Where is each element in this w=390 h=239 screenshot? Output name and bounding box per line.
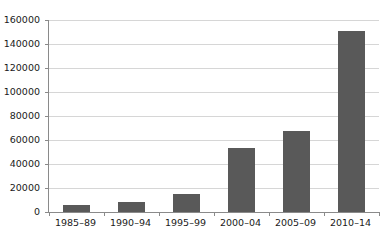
bar bbox=[63, 205, 90, 212]
plot-area bbox=[48, 20, 379, 213]
bar bbox=[228, 148, 255, 212]
x-axis-tick-labels: 1985–891990–941995–992000–042005–092010–… bbox=[48, 218, 378, 228]
bars-group bbox=[49, 20, 379, 212]
y-axis-tick-label: 160000 bbox=[0, 15, 40, 25]
y-axis-tick-label: 140000 bbox=[0, 39, 40, 49]
x-axis-tick-label: 1995–99 bbox=[158, 218, 213, 228]
x-axis-tick-label: 2010–14 bbox=[323, 218, 378, 228]
x-axis-tick-mark bbox=[379, 212, 380, 216]
bar bbox=[283, 131, 310, 212]
x-axis-tick-mark bbox=[49, 212, 50, 216]
y-axis-tick-label: 40000 bbox=[0, 159, 40, 169]
x-axis-tick-mark bbox=[104, 212, 105, 216]
bar bbox=[173, 194, 200, 212]
y-axis-tick-label: 60000 bbox=[0, 135, 40, 145]
bar bbox=[338, 31, 365, 212]
bar-slot bbox=[159, 20, 214, 212]
y-axis-tick-label: 100000 bbox=[0, 87, 40, 97]
bar bbox=[118, 202, 145, 212]
y-axis-tick-label: 20000 bbox=[0, 183, 40, 193]
x-axis-tick-label: 2005–09 bbox=[268, 218, 323, 228]
x-axis-tick-mark bbox=[324, 212, 325, 216]
bar-slot bbox=[214, 20, 269, 212]
x-axis-tick-label: 1990–94 bbox=[103, 218, 158, 228]
bar-chart-figure: 0200004000060000800001000001200001400001… bbox=[0, 0, 390, 239]
bar-slot bbox=[49, 20, 104, 212]
y-axis-tick-label: 120000 bbox=[0, 63, 40, 73]
y-axis-tick-label: 80000 bbox=[0, 111, 40, 121]
y-axis-tick-label: 0 bbox=[0, 207, 40, 217]
x-axis-tick-label: 2000–04 bbox=[213, 218, 268, 228]
x-axis-tick-label: 1985–89 bbox=[48, 218, 103, 228]
x-axis-tick-mark bbox=[269, 212, 270, 216]
bar-slot bbox=[104, 20, 159, 212]
bar-slot bbox=[269, 20, 324, 212]
x-axis-tick-mark bbox=[214, 212, 215, 216]
x-axis-tick-mark bbox=[159, 212, 160, 216]
bar-slot bbox=[324, 20, 379, 212]
